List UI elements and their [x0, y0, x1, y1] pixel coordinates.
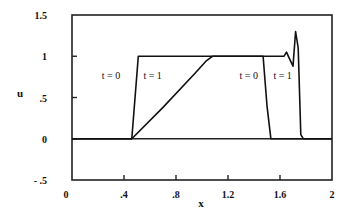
axis-ticks: 0.4.81.21.621.51.50- .5	[34, 10, 335, 200]
plot-border	[72, 15, 332, 180]
data-series	[72, 32, 332, 139]
curve-label: t = 1	[143, 70, 161, 81]
curve-label: t = 0	[240, 70, 258, 81]
x-tick-label: .8	[172, 189, 180, 200]
y-axis-label: u	[17, 87, 23, 99]
y-tick-label: .5	[40, 93, 48, 104]
series-line-1	[72, 32, 332, 139]
x-tick-label: 1.2	[222, 189, 235, 200]
y-tick-label: - .5	[34, 175, 47, 186]
x-tick-label: 0	[64, 189, 69, 200]
plot-frame	[72, 15, 332, 180]
x-tick-label: 1.6	[274, 189, 287, 200]
y-tick-label: 0	[42, 134, 47, 145]
curve-label: t = 1	[273, 70, 291, 81]
x-tick-label: .4	[120, 189, 128, 200]
curve-label: t = 0	[102, 70, 120, 81]
line-chart: 0.4.81.21.621.51.50- .5 t = 0t = 1t = 0t…	[0, 0, 351, 219]
x-axis-label: x	[198, 197, 204, 209]
x-tick-label: 2	[330, 189, 335, 200]
y-tick-label: 1.5	[35, 10, 48, 21]
y-tick-label: 1	[42, 51, 47, 62]
series-line-0	[72, 56, 332, 139]
